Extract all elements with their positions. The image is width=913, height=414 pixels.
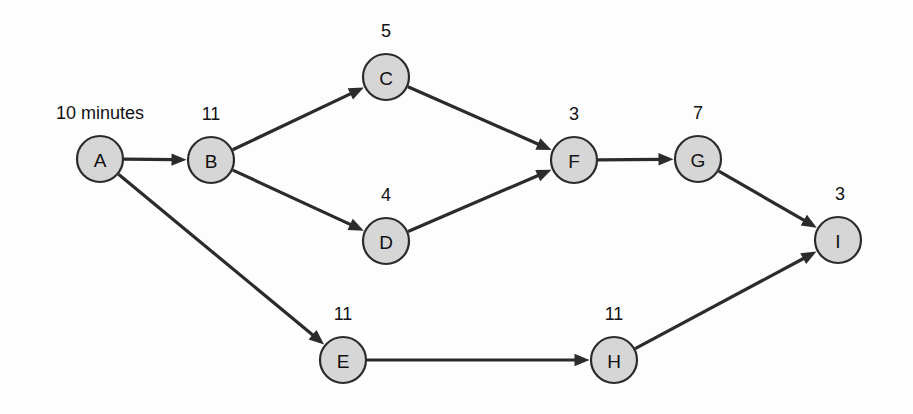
edge-line (408, 174, 540, 231)
duration-label-a: 10 minutes (56, 103, 144, 123)
edge-c-to-f (408, 87, 552, 150)
node-label-f: F (568, 151, 580, 172)
arrow-head-icon (535, 170, 551, 182)
node-label-e: E (337, 351, 350, 372)
node-e[interactable]: E (320, 337, 366, 383)
edge-e-to-h (367, 354, 590, 366)
node-h[interactable]: H (591, 337, 637, 383)
edge-b-to-c (233, 88, 364, 150)
node-label-i: I (835, 231, 840, 252)
edge-line (635, 257, 806, 348)
node-label-d: D (379, 232, 393, 253)
node-label-c: C (379, 68, 393, 89)
node-layer: ABCDEFGHI (77, 54, 861, 383)
duration-label-i: 3 (835, 184, 845, 204)
node-g[interactable]: G (675, 136, 721, 182)
edge-line (408, 87, 541, 146)
edge-d-to-f (408, 170, 551, 232)
node-label-g: G (691, 150, 706, 171)
arrow-head-icon (575, 354, 590, 366)
node-d[interactable]: D (363, 218, 409, 264)
duration-label-d: 4 (381, 185, 391, 205)
arrow-head-icon (658, 153, 673, 165)
edge-h-to-i (635, 252, 816, 349)
arrow-head-icon (171, 153, 186, 165)
edge-f-to-g (598, 153, 674, 165)
network-diagram-svg: ABCDEFGHI 10 minutes11541137113 (0, 0, 913, 414)
node-b[interactable]: B (188, 137, 234, 183)
node-f[interactable]: F (551, 137, 597, 183)
duration-label-g: 7 (693, 103, 703, 123)
node-c[interactable]: C (363, 54, 409, 100)
edge-line (719, 171, 807, 222)
edge-g-to-i (719, 171, 817, 228)
node-label-h: H (607, 351, 621, 372)
edge-layer (118, 87, 816, 367)
node-a[interactable]: A (77, 136, 123, 182)
node-i[interactable]: I (815, 217, 861, 263)
duration-label-f: 3 (569, 104, 579, 124)
edge-b-to-d (233, 170, 364, 231)
edge-a-to-b (124, 153, 187, 165)
duration-label-h: 11 (605, 304, 624, 324)
arrow-head-icon (535, 138, 551, 150)
duration-label-c: 5 (381, 21, 391, 41)
network-diagram-canvas: ABCDEFGHI 10 minutes11541137113 (0, 0, 913, 414)
edge-line (233, 170, 353, 226)
duration-label-e: 11 (334, 304, 353, 324)
edge-line (118, 174, 314, 336)
duration-label-b: 11 (202, 104, 221, 124)
edge-line (598, 159, 662, 160)
duration-label-layer: 10 minutes11541137113 (56, 21, 845, 324)
node-label-b: B (205, 151, 218, 172)
node-label-a: A (94, 150, 107, 171)
edge-line (233, 93, 353, 150)
